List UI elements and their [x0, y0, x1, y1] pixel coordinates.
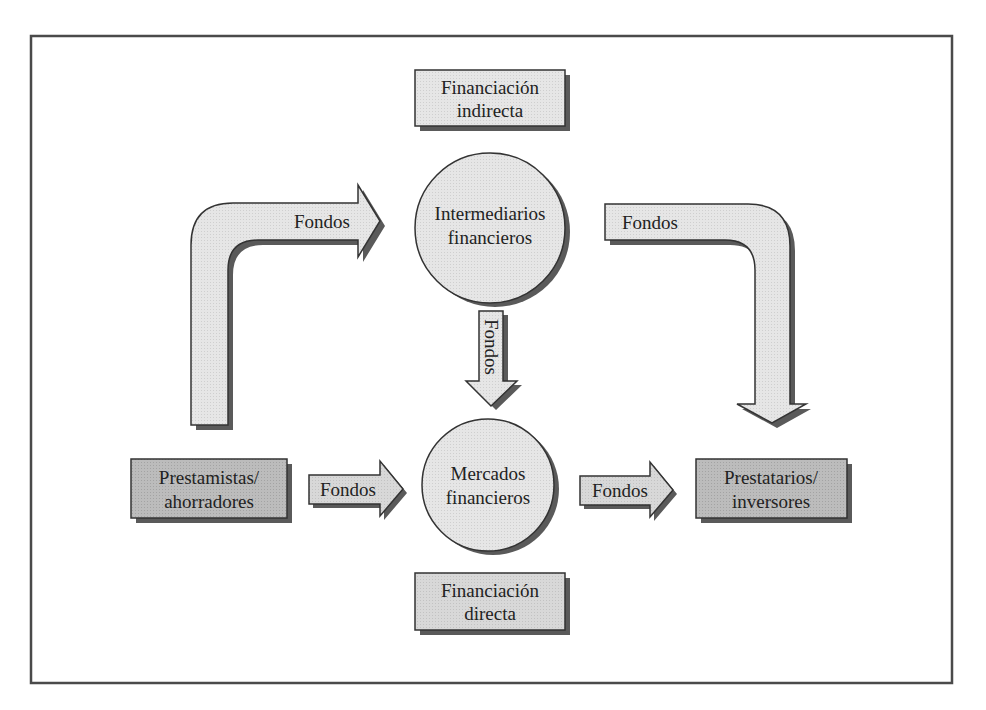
markets-line1: Mercados	[451, 463, 526, 484]
borrowers-line1: Prestatarios/	[724, 467, 819, 488]
arrow-label-fondos: Fondos	[320, 479, 376, 500]
financial-flow-diagram: Financiación indirecta Intermediarios fi…	[0, 0, 986, 710]
arrow-intermediaries-to-borrowers: Fondos	[605, 204, 811, 428]
direct-financing-line2: directa	[464, 603, 516, 624]
arrow-lenders-to-intermediaries: Fondos	[191, 185, 385, 430]
direct-financing-line1: Financiación	[441, 580, 540, 601]
financial-intermediaries-node: Intermediarios financieros	[415, 153, 570, 307]
intermediaries-line2: financieros	[448, 227, 532, 248]
indirect-financing-line1: Financiación	[441, 77, 540, 98]
financial-markets-node: Mercados financieros	[422, 419, 559, 555]
direct-financing-label-box: Financiación directa	[415, 573, 570, 635]
arrow-label-fondos: Fondos	[294, 211, 350, 232]
arrow-lenders-to-markets: Fondos	[309, 461, 407, 520]
markets-line2: financieros	[446, 487, 530, 508]
arrow-label-fondos: Fondos	[622, 212, 678, 233]
borrowers-line2: inversores	[732, 491, 810, 512]
lenders-line1: Prestamistas/	[159, 467, 260, 488]
arrow-intermediaries-to-markets: Fondos	[466, 311, 522, 410]
arrow-label-fondos: Fondos	[592, 480, 648, 501]
borrowers-investors-node: Prestatarios/ inversores	[696, 459, 852, 523]
arrow-markets-to-borrowers: Fondos	[580, 462, 677, 521]
arrow-label-fondos: Fondos	[481, 319, 502, 375]
lenders-line2: ahorradores	[164, 491, 254, 512]
lenders-savers-node: Prestamistas/ ahorradores	[131, 459, 292, 523]
intermediaries-line1: Intermediarios	[435, 203, 546, 224]
indirect-financing-label-box: Financiación indirecta	[415, 70, 570, 131]
indirect-financing-line2: indirecta	[457, 100, 524, 121]
